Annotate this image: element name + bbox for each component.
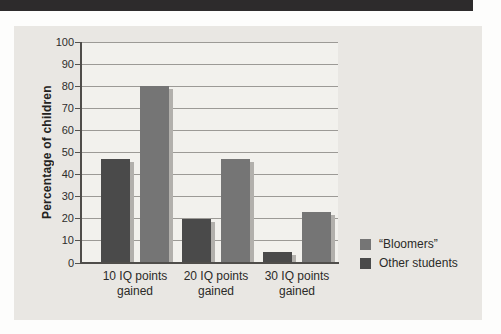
bar bbox=[101, 159, 130, 263]
y-tick-mark bbox=[75, 108, 80, 109]
bar bbox=[140, 86, 169, 263]
gridline bbox=[81, 64, 338, 65]
legend-swatch-bloomers-icon bbox=[360, 239, 371, 250]
x-axis-category-label: 20 IQ points gained bbox=[172, 269, 260, 299]
legend-label-bloomers: “Bloomers” bbox=[379, 237, 438, 251]
legend: “Bloomers” Other students bbox=[360, 237, 458, 275]
bar bbox=[182, 219, 211, 263]
y-tick-mark bbox=[75, 174, 80, 175]
y-tick-mark bbox=[75, 130, 80, 131]
top-banner-bar bbox=[0, 0, 473, 11]
y-axis-line bbox=[80, 42, 82, 263]
bar bbox=[302, 212, 331, 263]
x-axis-category-label: 10 IQ points gained bbox=[91, 269, 179, 299]
gridline bbox=[81, 42, 338, 43]
legend-label-other-students: Other students bbox=[379, 256, 458, 270]
y-tick-mark bbox=[75, 152, 80, 153]
page: 0102030405060708090100 10 IQ points gain… bbox=[0, 0, 501, 334]
gridline bbox=[81, 130, 338, 131]
legend-swatch-other-students-icon bbox=[360, 258, 371, 269]
y-tick-mark bbox=[75, 218, 80, 219]
chart-panel: 0102030405060708090100 10 IQ points gain… bbox=[14, 26, 482, 320]
gridline bbox=[81, 86, 338, 87]
y-tick-mark bbox=[75, 263, 80, 264]
legend-item-other-students: Other students bbox=[360, 256, 458, 270]
legend-item-bloomers: “Bloomers” bbox=[360, 237, 458, 251]
bar bbox=[221, 159, 250, 263]
y-tick-mark bbox=[75, 196, 80, 197]
y-tick-mark bbox=[75, 64, 80, 65]
y-tick-mark bbox=[75, 86, 80, 87]
x-axis-line bbox=[80, 262, 339, 264]
gridline bbox=[81, 152, 338, 153]
y-tick-mark bbox=[75, 240, 80, 241]
y-tick-mark bbox=[75, 42, 80, 43]
gridline bbox=[81, 108, 338, 109]
x-axis-category-label: 30 IQ points gained bbox=[253, 269, 341, 299]
y-axis-title: Percentage of children bbox=[40, 42, 54, 263]
